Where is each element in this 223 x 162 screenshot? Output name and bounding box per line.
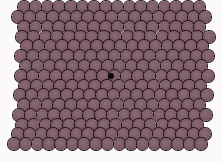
sphere	[200, 109, 212, 121]
sphere	[8, 138, 20, 150]
sphere	[149, 138, 161, 150]
sphere-lattice	[0, 0, 223, 162]
sphere	[160, 138, 172, 150]
sphere	[201, 89, 213, 101]
sphere	[202, 70, 214, 82]
sphere	[20, 138, 32, 150]
sphere	[67, 138, 79, 150]
sphere	[137, 138, 149, 150]
lattice-defect	[108, 73, 114, 79]
sphere	[184, 138, 196, 150]
sphere	[78, 138, 90, 150]
sphere	[114, 138, 126, 150]
sphere	[55, 138, 67, 150]
sphere	[32, 138, 44, 150]
sphere	[90, 138, 102, 150]
sphere	[195, 138, 207, 150]
sphere	[125, 138, 137, 150]
sphere	[172, 138, 184, 150]
sphere	[102, 138, 114, 150]
sphere	[43, 138, 55, 150]
